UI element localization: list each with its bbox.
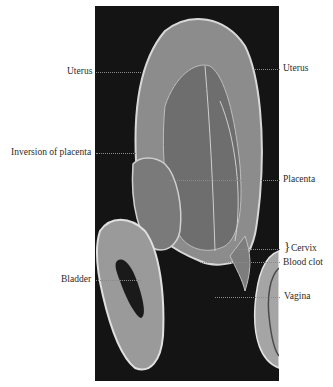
label-uterus-right: Uterus [283, 64, 308, 74]
leader-line-uterus-right [255, 69, 280, 70]
leader-line-bladder [96, 280, 141, 281]
label-uterus-left: Uterus [67, 67, 92, 77]
leader-line-blood-clot [200, 262, 280, 263]
leader-line-vagina [215, 297, 280, 298]
label-cervix: Cervix [291, 244, 317, 254]
leader-line-placenta [170, 180, 280, 181]
label-blood-clot: Blood clot [283, 258, 323, 268]
leader-line-cervix [235, 249, 280, 250]
leader-line-inversion [96, 153, 136, 154]
label-placenta: Placenta [283, 175, 315, 185]
label-vagina: Vagina [284, 292, 310, 302]
leader-line-uterus-left [96, 72, 141, 73]
label-bladder: Bladder [61, 275, 91, 285]
label-inversion-of-placenta: Inversion of placenta [11, 148, 91, 158]
cervix-brace: } [284, 240, 290, 253]
specimen-illustration [95, 6, 279, 381]
